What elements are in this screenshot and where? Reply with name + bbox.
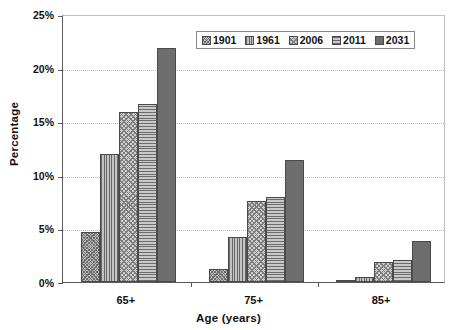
bar-group-65plus: [63, 16, 191, 282]
y-tick-label: 10%: [18, 171, 54, 182]
bar-chart: Percentage 25% 20% 15% 10% 5% 0%: [0, 0, 457, 330]
legend-item-1901[interactable]: 1901: [202, 35, 236, 46]
bar-75plus-2011[interactable]: [266, 197, 285, 282]
x-category-label-75plus: 75+: [194, 294, 314, 306]
y-tick-label: 20%: [18, 64, 54, 75]
bar-65plus-1961[interactable]: [100, 154, 119, 282]
legend-swatch-1901-icon: [202, 36, 211, 45]
chart-legend: 1901 1961 2006 2011 2031: [196, 31, 415, 49]
y-tick-label: 15%: [18, 117, 54, 128]
x-category-label-85plus: 85+: [321, 294, 441, 306]
bar-65plus-1901[interactable]: [81, 232, 100, 282]
bar-85plus-1901[interactable]: [336, 280, 355, 283]
x-category-label-65plus: 65+: [66, 294, 186, 306]
bar-85plus-1961[interactable]: [355, 277, 374, 282]
legend-swatch-2011-icon: [332, 36, 341, 45]
x-axis-title: Age (years): [0, 312, 457, 324]
legend-swatch-2006-icon: [289, 36, 298, 45]
legend-label-2011: 2011: [343, 35, 366, 46]
y-tick-label: 5%: [18, 224, 54, 235]
bar-85plus-2031[interactable]: [412, 241, 431, 282]
legend-item-2006[interactable]: 2006: [289, 35, 323, 46]
legend-label-1961: 1961: [256, 35, 279, 46]
x-tickmark-2: [318, 282, 319, 287]
bar-group-85plus: [318, 16, 446, 282]
bar-75plus-2031[interactable]: [285, 160, 304, 282]
bar-65plus-2006[interactable]: [119, 112, 138, 282]
bar-85plus-2006[interactable]: [374, 262, 393, 282]
y-tick-label: 0%: [18, 278, 54, 289]
bar-65plus-2031[interactable]: [157, 48, 176, 282]
legend-item-2031[interactable]: 2031: [375, 35, 409, 46]
legend-swatch-2031-icon: [375, 36, 384, 45]
plot-area: [62, 15, 445, 283]
bar-75plus-2006[interactable]: [247, 201, 266, 283]
legend-label-1901: 1901: [213, 35, 236, 46]
y-tickmark-0: [58, 283, 63, 284]
x-tickmark-1: [191, 282, 192, 287]
bar-75plus-1961[interactable]: [228, 237, 247, 282]
legend-label-2006: 2006: [300, 35, 323, 46]
legend-item-2011[interactable]: 2011: [332, 35, 366, 46]
bar-group-75plus: [191, 16, 319, 282]
legend-item-1961[interactable]: 1961: [245, 35, 279, 46]
bar-65plus-2011[interactable]: [138, 104, 157, 282]
y-tick-label: 25%: [18, 10, 54, 21]
y-axis-tick-labels: 25% 20% 15% 10% 5% 0%: [18, 0, 54, 330]
bar-85plus-2011[interactable]: [393, 260, 412, 283]
legend-label-2031: 2031: [386, 35, 409, 46]
bar-75plus-1901[interactable]: [209, 269, 228, 282]
legend-swatch-1961-icon: [245, 36, 254, 45]
